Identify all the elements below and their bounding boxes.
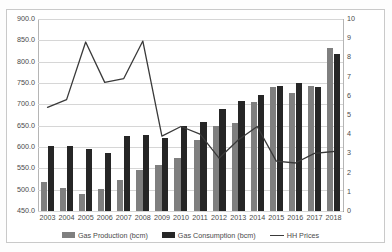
legend-label: Gas Consumption (bcm)	[178, 231, 256, 240]
legend-swatch-icon	[62, 232, 75, 238]
x-axis-tick-2010: 2010	[171, 213, 190, 223]
y-axis-right-tick: 5	[347, 111, 351, 119]
x-axis-tick-2005: 2005	[76, 213, 95, 223]
x-axis-tick-2008: 2008	[133, 213, 152, 223]
y-axis-left-tick: 800.0	[17, 58, 35, 66]
hh-prices-line	[38, 19, 343, 211]
y-axis-right-tick: 0	[347, 207, 351, 215]
x-axis-tick-2015: 2015	[267, 213, 286, 223]
hh-prices-polyline	[48, 41, 334, 163]
legend-item-1[interactable]: Gas Production (bcm)	[62, 231, 148, 240]
x-axis-tick-2013: 2013	[229, 213, 248, 223]
x-axis-tick-2011: 2011	[191, 213, 210, 223]
chart-legend: Gas Production (bcm)Gas Consumption (bcm…	[38, 228, 343, 242]
y-axis-left-tick: 650.0	[17, 122, 35, 130]
y-axis-right-tick: 7	[347, 73, 351, 81]
legend-label: HH Prices	[287, 231, 319, 240]
legend-item-3[interactable]: HH Prices	[270, 231, 319, 240]
x-axis-tick-2009: 2009	[152, 213, 171, 223]
x-axis-tick-2018: 2018	[324, 213, 343, 223]
legend-swatch-icon	[162, 232, 175, 238]
y-axis-left-tick: 600.0	[17, 143, 35, 151]
y-axis-left-tick: 900.0	[17, 15, 35, 23]
y-axis-left-tick: 700.0	[17, 100, 35, 108]
y-axis-right-line	[343, 19, 344, 212]
y-axis-left-tick: 750.0	[17, 79, 35, 87]
legend-item-2[interactable]: Gas Consumption (bcm)	[162, 231, 256, 240]
y-axis-left-tick: 450.0	[17, 207, 35, 215]
x-axis-tick-2014: 2014	[248, 213, 267, 223]
y-axis-left-labels: 900.0850.0800.0750.0700.0650.0600.0550.0…	[0, 0, 35, 252]
x-axis-tick-2016: 2016	[286, 213, 305, 223]
x-axis-tick-2017: 2017	[305, 213, 324, 223]
y-axis-left-tick: 500.0	[17, 186, 35, 194]
y-axis-right-tick: 8	[347, 53, 351, 61]
chart-container: 900.0850.0800.0750.0700.0650.0600.0550.0…	[0, 0, 392, 252]
y-axis-right-tick: 1	[347, 188, 351, 196]
x-axis-tick-2012: 2012	[210, 213, 229, 223]
gridline	[38, 211, 343, 212]
y-axis-left-tick: 850.0	[17, 36, 35, 44]
y-axis-left-tick: 550.0	[17, 164, 35, 172]
x-axis-tick-2006: 2006	[95, 213, 114, 223]
plot-area	[38, 19, 343, 211]
y-axis-right-tick: 3	[347, 149, 351, 157]
y-axis-right-tick: 10	[347, 15, 355, 23]
y-axis-right-labels: 109876543210	[347, 0, 371, 252]
x-axis-labels: 2003200420052006200720082009201020112012…	[38, 213, 343, 225]
x-axis-tick-2003: 2003	[38, 213, 57, 223]
y-axis-right-tick: 6	[347, 92, 351, 100]
x-axis-tick-2007: 2007	[114, 213, 133, 223]
legend-swatch-icon	[270, 235, 284, 236]
x-axis-tick-2004: 2004	[57, 213, 76, 223]
y-axis-right-tick: 2	[347, 169, 351, 177]
legend-label: Gas Production (bcm)	[78, 231, 148, 240]
y-axis-right-tick: 4	[347, 130, 351, 138]
y-axis-right-tick: 9	[347, 34, 351, 42]
